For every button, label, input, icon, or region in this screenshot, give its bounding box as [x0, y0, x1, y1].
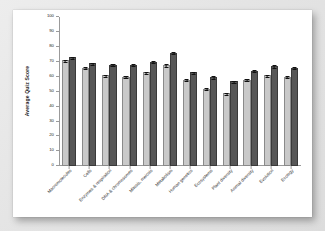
y-tick-label: 90 — [49, 28, 54, 33]
bar-1[interactable] — [102, 75, 109, 166]
error-cap-bottom — [205, 90, 209, 91]
error-cap-top — [225, 93, 229, 94]
bar-group — [220, 17, 240, 166]
error-bar — [92, 63, 93, 66]
bar-group — [59, 17, 79, 166]
error-cap-bottom — [192, 74, 196, 75]
error-cap-bottom — [144, 74, 148, 75]
error-bar — [72, 57, 73, 60]
bar-group — [99, 17, 119, 166]
error-cap-top — [84, 67, 88, 68]
error-cap-top — [232, 81, 236, 82]
error-cap-bottom — [104, 77, 108, 78]
error-cap-top — [104, 75, 108, 76]
error-bar — [146, 72, 147, 75]
bar-1[interactable] — [243, 80, 250, 166]
bar-2[interactable] — [130, 65, 137, 166]
bar-1[interactable] — [82, 68, 89, 166]
error-bar — [105, 75, 106, 78]
bar-2[interactable] — [109, 65, 116, 166]
y-tick-label: 0 — [52, 162, 54, 167]
y-tick-label: 30 — [49, 118, 54, 123]
error-cap-top — [272, 65, 276, 66]
bar-1[interactable] — [143, 72, 150, 166]
y-tick-label: 20 — [49, 132, 54, 137]
bar-2[interactable] — [210, 77, 217, 166]
error-cap-top — [184, 79, 188, 80]
error-bar — [206, 88, 207, 91]
bar-group — [120, 17, 140, 166]
bar-group — [241, 17, 261, 166]
bar-1[interactable] — [183, 80, 190, 166]
error-cap-top — [63, 60, 67, 61]
x-axis-label: Ecosystems — [194, 168, 214, 188]
error-cap-bottom — [212, 79, 216, 80]
bar-group — [200, 17, 220, 166]
error-cap-top — [151, 61, 155, 62]
error-cap-bottom — [164, 67, 168, 68]
bar-2[interactable] — [190, 72, 197, 166]
bar-group — [160, 17, 180, 166]
bar-2[interactable] — [291, 68, 298, 166]
bar-1[interactable] — [163, 65, 170, 166]
bar-1[interactable] — [284, 77, 291, 166]
bar-1[interactable] — [223, 93, 230, 166]
bar-1[interactable] — [203, 89, 210, 166]
error-cap-bottom — [131, 66, 135, 67]
error-cap-top — [164, 64, 168, 65]
error-bar — [234, 81, 235, 84]
bar-group — [79, 17, 99, 166]
y-tick-label: 60 — [49, 73, 54, 78]
error-cap-top — [212, 76, 216, 77]
error-bar — [133, 64, 134, 67]
error-bar — [274, 65, 275, 69]
error-cap-bottom — [151, 63, 155, 64]
bar-2[interactable] — [170, 53, 177, 166]
y-tick-label: 40 — [49, 103, 54, 108]
error-bar — [126, 76, 127, 79]
error-bar — [85, 67, 86, 70]
error-cap-bottom — [272, 68, 276, 69]
y-tick-label: 50 — [49, 88, 54, 93]
error-cap-bottom — [171, 54, 175, 55]
error-cap-top — [111, 64, 115, 65]
error-cap-top — [205, 88, 209, 89]
bar-1[interactable] — [264, 75, 271, 166]
error-bar — [294, 67, 295, 70]
error-cap-bottom — [225, 95, 229, 96]
error-cap-top — [91, 63, 95, 64]
bar-2[interactable] — [251, 71, 258, 166]
y-tick-label: 80 — [49, 43, 54, 48]
chart-figure: Average Quiz Score 010203040506070809010… — [13, 10, 312, 217]
x-axis-label: Cells — [82, 168, 92, 178]
bar-groups — [59, 17, 301, 166]
error-cap-bottom — [63, 62, 67, 63]
error-cap-top — [265, 75, 269, 76]
error-cap-bottom — [245, 81, 249, 82]
error-cap-top — [131, 64, 135, 65]
bar-2[interactable] — [89, 63, 96, 166]
plot-axes: 0102030405060708090100 — [59, 17, 301, 166]
bar-group — [180, 17, 200, 166]
x-axis-label: Macromolecules — [46, 168, 72, 194]
bar-1[interactable] — [62, 60, 69, 166]
x-axis-labels: MacromoleculesCellsEnzymes & respiration… — [59, 168, 301, 216]
bar-group — [281, 17, 301, 166]
error-cap-bottom — [285, 78, 289, 79]
error-cap-top — [144, 72, 148, 73]
bar-1[interactable] — [122, 77, 129, 166]
error-cap-bottom — [184, 81, 188, 82]
error-cap-top — [171, 52, 175, 53]
x-axis-label: Ecology — [280, 168, 295, 183]
bar-2[interactable] — [150, 62, 157, 166]
error-bar — [193, 72, 194, 75]
bar-2[interactable] — [271, 66, 278, 166]
y-tick-label: 10 — [49, 147, 54, 152]
error-bar — [166, 64, 167, 68]
error-cap-top — [124, 76, 128, 77]
x-axis-label: Metabolism — [154, 168, 173, 187]
error-cap-top — [292, 67, 296, 68]
bar-2[interactable] — [69, 57, 76, 166]
y-tick-label: 70 — [49, 58, 54, 63]
bar-2[interactable] — [230, 81, 237, 166]
